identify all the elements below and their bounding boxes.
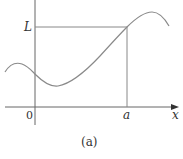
- a-label: a: [123, 109, 130, 121]
- origin-label: 0: [26, 110, 33, 121]
- limit-diagram: L 0 a x (a): [0, 0, 183, 159]
- figure-caption: (a): [81, 136, 98, 148]
- x-axis-label: x: [172, 109, 179, 121]
- L-label: L: [24, 21, 32, 33]
